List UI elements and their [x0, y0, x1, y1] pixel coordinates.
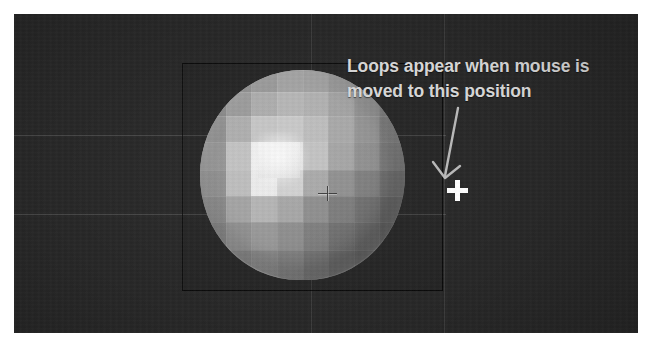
sphere-facet: [303, 222, 329, 250]
sphere-facet: [226, 222, 252, 250]
3d-viewport[interactable]: Loops appear when mouse is moved to this…: [14, 14, 638, 333]
sphere-facet: [354, 196, 380, 222]
sphere-seam-vertical: [303, 70, 304, 280]
sphere-facet: [379, 222, 405, 250]
sphere-seam-vertical: [277, 70, 278, 280]
sphere-facet: [200, 222, 226, 250]
sphere-facet: [251, 250, 277, 280]
sphere-facet: [379, 170, 405, 196]
sphere-facet: [226, 250, 252, 280]
sphere-facet: [226, 196, 252, 222]
sphere-facet: [303, 250, 329, 280]
sphere-facet: [379, 142, 405, 170]
sphere-facet: [277, 222, 303, 250]
sphere-seam-vertical: [226, 70, 227, 280]
crosshair-cursor-icon: [447, 180, 468, 201]
cursor-vertical-bar: [455, 180, 460, 201]
3d-cursor-vertical-bar: [327, 186, 328, 201]
sphere-facet: [277, 196, 303, 222]
sphere-facet: [251, 92, 277, 116]
sphere-facet: [379, 196, 405, 222]
annotation-text: Loops appear when mouse is moved to this…: [347, 54, 638, 104]
sphere-facet: [379, 250, 405, 280]
3d-cursor-icon[interactable]: [318, 184, 337, 203]
sphere-facet: [328, 222, 354, 250]
sphere-facet: [379, 116, 405, 142]
sphere-facet: [200, 250, 226, 280]
sphere-facet: [328, 116, 354, 142]
sphere-facet: [226, 92, 252, 116]
sphere-facet: [354, 222, 380, 250]
sphere-facet: [200, 116, 226, 142]
sphere-facet: [226, 70, 252, 92]
sphere-facet: [226, 116, 252, 142]
sphere-facet: [251, 196, 277, 222]
sphere-facet: [277, 92, 303, 116]
sphere-facet: [328, 250, 354, 280]
sphere-facet: [328, 142, 354, 170]
sphere-facet: [354, 142, 380, 170]
annotation-line-2: moved to this position: [347, 79, 638, 104]
sphere-seam-vertical: [328, 70, 329, 280]
sphere-facet: [226, 170, 252, 196]
sphere-facet: [251, 222, 277, 250]
sphere-facet: [226, 142, 252, 170]
sphere-facet: [277, 70, 303, 92]
sphere-facet: [354, 116, 380, 142]
sphere-facet: [303, 70, 329, 92]
sphere-seam-vertical: [251, 70, 252, 280]
sphere-facet: [354, 250, 380, 280]
sphere-facet: [251, 70, 277, 92]
sphere-specular-glow: [252, 132, 308, 188]
sphere-facet: [200, 92, 226, 116]
sphere-facet: [200, 142, 226, 170]
sphere-facet: [200, 196, 226, 222]
sphere-facet: [200, 70, 226, 92]
sphere-facet: [277, 250, 303, 280]
sphere-facet: [354, 170, 380, 196]
annotation-line-1: Loops appear when mouse is: [347, 54, 638, 79]
sphere-facet: [200, 170, 226, 196]
sphere-facet: [303, 92, 329, 116]
screenshot-root: Loops appear when mouse is moved to this…: [0, 0, 652, 353]
